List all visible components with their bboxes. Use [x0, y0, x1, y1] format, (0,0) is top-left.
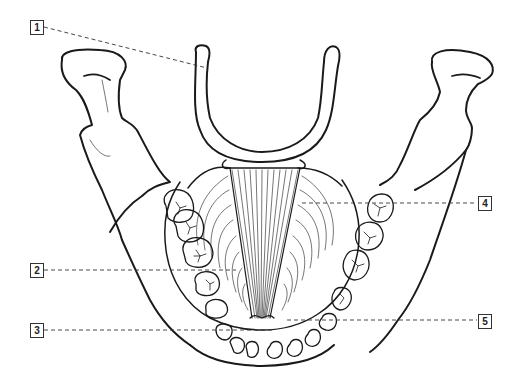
label-3: 3 [30, 323, 44, 338]
hyoid-bone [195, 45, 340, 162]
mylohyoid-fibers-right [282, 176, 333, 310]
label-1: 1 [30, 20, 44, 35]
label-5: 5 [478, 314, 492, 329]
leader-lines [44, 27, 477, 330]
genioglossus-fibers [232, 170, 298, 318]
right-ramus [415, 50, 493, 190]
teeth-left [164, 190, 258, 358]
mandible-outer [190, 345, 334, 366]
label-4: 4 [478, 196, 492, 211]
left-ramus [62, 49, 170, 232]
label-2: 2 [30, 263, 44, 278]
mandible-diagram [0, 0, 520, 389]
mylohyoid-fibers-left [197, 176, 248, 310]
teeth-right [267, 194, 393, 358]
